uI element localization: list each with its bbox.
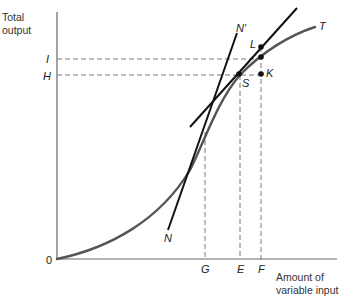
label-I: I (46, 53, 49, 65)
point-S (236, 71, 242, 77)
x-axis-title: Amount of variable input (276, 271, 338, 297)
point-K (258, 71, 264, 77)
label-L: L (250, 38, 256, 50)
label-G: G (201, 263, 210, 275)
x-axis-title-line2: variable input (276, 284, 338, 297)
label-N-prime: N′ (236, 22, 246, 34)
label-S: S (242, 77, 249, 89)
line-NN-prime (168, 33, 237, 230)
origin-label: 0 (46, 254, 52, 266)
total-product-curve-T (57, 27, 315, 259)
x-axis-title-line1: Amount of (276, 271, 338, 284)
label-T: T (319, 20, 326, 32)
point-L (258, 44, 264, 50)
label-E: E (237, 263, 244, 275)
label-N: N (164, 232, 172, 244)
y-axis-title-line2: output (2, 24, 31, 37)
y-axis-title: Total output (2, 11, 31, 37)
label-H: H (43, 70, 51, 82)
y-axis-title-line1: Total (2, 11, 31, 24)
label-F: F (258, 263, 265, 275)
label-K: K (266, 67, 273, 79)
point-curve-at-F (258, 54, 264, 60)
